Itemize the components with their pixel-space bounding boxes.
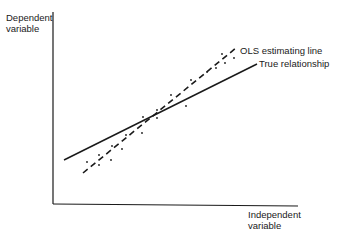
true-relationship-line xyxy=(64,64,257,160)
y-axis-label-line1: Dependent xyxy=(6,12,52,23)
ols-line-label: OLS estimating line xyxy=(240,45,322,56)
x-axis xyxy=(53,204,298,206)
x-axis-label: Independent variable xyxy=(248,209,301,231)
ols-estimating-line xyxy=(83,48,236,173)
x-axis-label-line2: variable xyxy=(248,220,301,231)
regression-diagram xyxy=(0,0,338,238)
true-line-label: True relationship xyxy=(259,58,329,69)
y-axis-label: Dependent variable xyxy=(6,12,52,34)
y-axis-label-line2: variable xyxy=(6,23,52,34)
x-axis-label-line1: Independent xyxy=(248,209,301,220)
